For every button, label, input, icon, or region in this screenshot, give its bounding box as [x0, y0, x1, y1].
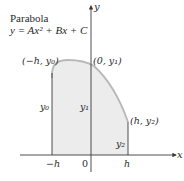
- tick-zero: 0: [82, 158, 88, 169]
- tick-minus-h: −h: [46, 158, 60, 169]
- title-parabola: Parabola: [10, 12, 49, 24]
- title-equation: y = Ax² + Bx + C: [9, 24, 88, 36]
- x-axis-label: x: [177, 149, 183, 160]
- point-middle-label: (0, y₁): [93, 55, 122, 66]
- point-left-label: (−h, y₀): [22, 55, 59, 66]
- ordinate-y1-label: y₁: [79, 101, 89, 112]
- ordinate-y2-label: y₂: [115, 138, 125, 149]
- y-axis-label: y: [93, 1, 100, 12]
- point-right-label: (h, y₂): [130, 115, 159, 126]
- parabola-diagram: Parabola y = Ax² + Bx + C y x −h 0 h (−h…: [0, 0, 184, 181]
- ordinate-y0-label: y₀: [39, 101, 49, 112]
- tick-h: h: [124, 158, 130, 169]
